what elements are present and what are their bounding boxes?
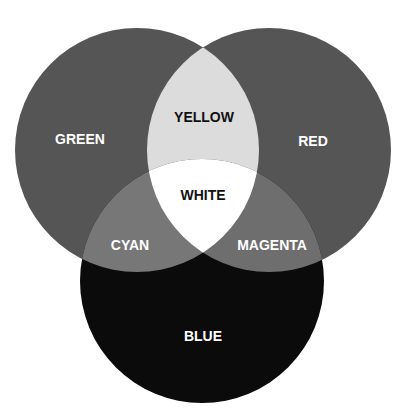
label-green: GREEN xyxy=(55,131,105,147)
label-magenta: MAGENTA xyxy=(237,237,307,253)
label-blue: BLUE xyxy=(184,328,222,344)
label-white: WHITE xyxy=(180,187,225,203)
label-cyan: CYAN xyxy=(111,237,149,253)
additive-color-venn-diagram: GREEN RED YELLOW WHITE CYAN MAGENTA BLUE xyxy=(0,0,416,419)
label-yellow: YELLOW xyxy=(174,109,235,125)
label-red: RED xyxy=(298,133,328,149)
